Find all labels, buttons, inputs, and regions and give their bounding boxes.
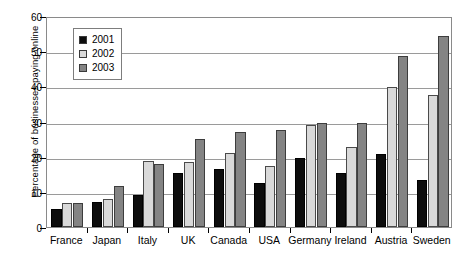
bar — [398, 56, 408, 227]
bar — [73, 203, 83, 227]
bar — [295, 158, 305, 227]
bar — [317, 123, 327, 227]
bar — [336, 173, 346, 227]
x-axis-tick-mark — [330, 228, 331, 233]
y-axis-title: Percentage of businesses paying online — [29, 12, 40, 212]
x-axis-category-label: Japan — [93, 234, 122, 246]
bar-group — [133, 18, 165, 227]
bar — [387, 87, 397, 227]
y-axis-tick-mark — [40, 228, 46, 229]
bar-group — [336, 18, 368, 227]
bar — [173, 173, 183, 228]
bar — [143, 161, 153, 227]
bar-group — [173, 18, 205, 227]
bar — [62, 203, 72, 227]
x-axis-category-label: UK — [181, 234, 196, 246]
bar — [254, 183, 264, 227]
x-axis-category-label: Sweden — [413, 234, 451, 246]
x-axis-tick-mark — [290, 228, 291, 233]
bar-group — [295, 18, 327, 227]
legend-label-2001: 2001 — [92, 35, 114, 45]
bar — [417, 180, 427, 227]
legend-label-2003: 2003 — [92, 63, 114, 73]
bar — [103, 199, 113, 227]
bar-group — [254, 18, 286, 227]
x-axis-category-label: France — [50, 234, 83, 246]
bar — [428, 95, 438, 227]
y-axis-tick-label: 40 — [8, 82, 42, 93]
y-axis-tick-label: 10 — [8, 187, 42, 198]
x-axis-tick-mark — [168, 228, 169, 233]
x-axis-category-label: Austria — [375, 234, 408, 246]
x-axis-tick-mark — [371, 228, 372, 233]
bar — [184, 162, 194, 227]
x-axis-category-label: Germany — [288, 234, 331, 246]
bar — [51, 209, 61, 227]
bar — [92, 202, 102, 227]
y-axis-tick-label: 0 — [8, 223, 42, 234]
bar — [276, 130, 286, 227]
bar — [306, 125, 316, 227]
y-axis-tick-label: 20 — [8, 152, 42, 163]
bar-chart: Percentage of businesses paying online 0… — [0, 0, 462, 260]
x-axis-category-label: USA — [259, 234, 281, 246]
bar — [346, 147, 356, 227]
bar-group — [417, 18, 449, 227]
legend: 2001 2002 2003 — [73, 28, 122, 80]
legend-swatch-2001-icon — [79, 36, 87, 44]
legend-item: 2001 — [79, 33, 114, 47]
bar — [195, 139, 205, 227]
legend-swatch-2002-icon — [79, 50, 87, 58]
y-axis-tick-label: 60 — [8, 12, 42, 23]
bar — [225, 153, 235, 227]
bar — [114, 186, 124, 227]
bar — [376, 154, 386, 227]
bar — [265, 166, 275, 227]
x-axis-tick-mark — [87, 228, 88, 233]
legend-item: 2003 — [79, 61, 114, 75]
x-axis-category-label: Canada — [210, 234, 247, 246]
y-axis-tick-label: 50 — [8, 47, 42, 58]
x-axis-tick-mark — [127, 228, 128, 233]
bar — [438, 36, 448, 227]
legend-label-2002: 2002 — [92, 49, 114, 59]
x-axis-category-label: Ireland — [334, 234, 366, 246]
bar — [357, 123, 367, 227]
x-axis-tick-mark — [249, 228, 250, 233]
bar — [154, 164, 164, 227]
x-axis-tick-mark — [411, 228, 412, 233]
bar-group — [214, 18, 246, 227]
bar-group — [376, 18, 408, 227]
legend-item: 2002 — [79, 47, 114, 61]
x-axis-category-label: Italy — [138, 234, 157, 246]
bar — [214, 169, 224, 227]
legend-swatch-2003-icon — [79, 64, 87, 72]
x-axis-tick-mark — [208, 228, 209, 233]
bar — [133, 195, 143, 227]
y-axis-tick-label: 30 — [8, 117, 42, 128]
bar — [235, 132, 245, 227]
